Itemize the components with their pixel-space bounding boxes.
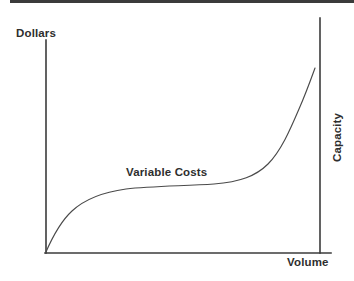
- plot-area: [0, 0, 354, 281]
- x-axis-label: Volume: [287, 256, 329, 268]
- chart-figure: Dollars Volume Capacity Variable Costs: [0, 0, 354, 281]
- variable-costs-curve: [46, 68, 316, 253]
- capacity-axis-label: Capacity: [331, 113, 343, 162]
- y-axis-label: Dollars: [16, 27, 56, 39]
- variable-costs-curve-label: Variable Costs: [126, 166, 207, 178]
